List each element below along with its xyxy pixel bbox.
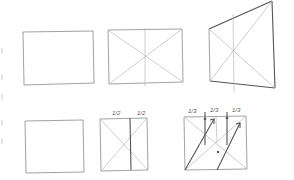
figure-bottom-plain-rectangle [25, 120, 84, 173]
label-third-2: 1/3 [210, 107, 219, 113]
sketch-canvas: 1/2 1/2 1/3 1/3 1/3 [0, 0, 294, 180]
figure-bottom-halves: 1/2 1/2 [100, 110, 148, 171]
figure-bottom-thirds: 1/3 1/3 1/3 [184, 107, 247, 170]
marker-dot [226, 117, 229, 120]
marker-dot [217, 151, 219, 153]
label-half-right: 1/2 [137, 110, 146, 116]
marker-dot [204, 118, 207, 121]
figure-top-perspective [209, 1, 275, 92]
label-half-left: 1/2 [112, 110, 121, 116]
figure-top-diagonals [108, 28, 183, 86]
label-third-3: 1/3 [232, 107, 241, 113]
figure-top-plain-rectangle [23, 31, 94, 85]
label-third-1: 1/3 [188, 108, 197, 114]
